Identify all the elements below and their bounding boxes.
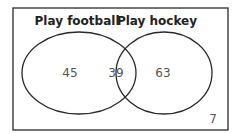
outside-count: 7 (209, 112, 217, 126)
hockey-only-count: 63 (155, 66, 170, 80)
intersection-count: 39 (108, 66, 123, 80)
football-only-count: 45 (62, 66, 77, 80)
hockey-label: Play hockey (117, 14, 197, 28)
football-label: Play football (35, 14, 120, 28)
venn-diagram: Play football Play hockey 45 39 63 7 (0, 0, 240, 134)
